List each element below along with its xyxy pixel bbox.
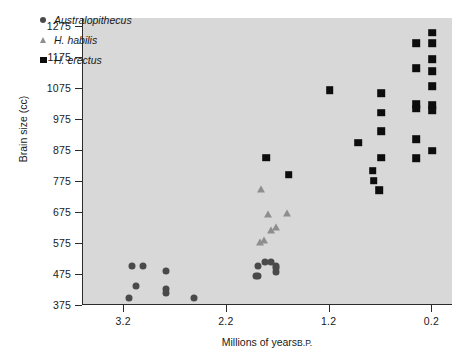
data-point-triangle [257, 186, 265, 193]
x-axis-tick-label: 3.2 [101, 315, 145, 327]
data-point-circle [163, 268, 170, 275]
data-point-square [377, 127, 385, 135]
x-axis-title-main: Millions of years [222, 336, 297, 348]
y-axis-tick [75, 119, 82, 120]
data-point-circle [126, 294, 133, 301]
data-point-square [412, 154, 420, 162]
y-axis-tick-label: 1075 [21, 82, 71, 94]
data-point-square [429, 29, 437, 37]
data-point-triangle [272, 223, 280, 230]
y-axis-tick-label: 875 [21, 144, 71, 156]
x-axis-tick-label: 2.2 [204, 315, 248, 327]
data-point-square [412, 105, 420, 113]
legend-square-icon [40, 57, 54, 64]
x-axis-tick [123, 305, 124, 312]
y-axis-tick [75, 181, 82, 182]
data-point-circle [254, 263, 261, 270]
x-axis-tick [226, 305, 227, 312]
data-point-circle [139, 263, 146, 270]
x-axis-tick [329, 305, 330, 312]
data-point-square [412, 40, 420, 48]
y-axis-tick-label: 775 [21, 175, 71, 187]
legend: AustralopithecusH. habilisH. erectus [40, 14, 132, 66]
data-point-circle [133, 283, 140, 290]
y-axis-tick [75, 88, 82, 89]
data-point-triangle [260, 236, 268, 243]
legend-item-label: H. habilis [54, 34, 97, 46]
legend-item-australopithecus[interactable]: Australopithecus [40, 14, 132, 26]
y-axis-tick-label: 375 [21, 299, 71, 311]
data-point-square [429, 82, 437, 90]
data-point-square [326, 86, 334, 94]
data-point-triangle [283, 210, 291, 217]
x-axis-tick-label: 0.2 [409, 315, 453, 327]
data-point-square [285, 171, 293, 179]
x-axis-tick-label: 1.2 [307, 315, 351, 327]
legend-item-h-habilis[interactable]: H. habilis [40, 34, 132, 46]
data-point-square [429, 40, 437, 48]
data-point-circle [163, 289, 170, 296]
data-point-square [262, 154, 270, 162]
y-axis-tick [75, 150, 82, 151]
data-point-square [377, 89, 385, 97]
legend-item-label: Australopithecus [54, 14, 132, 26]
data-point-square [369, 167, 377, 175]
data-point-square [429, 147, 437, 155]
x-axis-tick [431, 305, 432, 312]
x-axis-title: Millions of yearsB.P. [82, 336, 452, 348]
data-point-square [429, 107, 437, 115]
legend-circle-icon [40, 17, 54, 23]
data-point-circle [252, 273, 259, 280]
data-point-square [377, 109, 385, 117]
data-point-circle [191, 294, 198, 301]
y-axis-tick [75, 243, 82, 244]
y-axis-tick-label: 675 [21, 206, 71, 218]
data-point-circle [273, 268, 280, 275]
y-axis-tick-label: 475 [21, 268, 71, 280]
legend-triangle-icon [40, 37, 54, 43]
legend-item-label: H. erectus [54, 54, 102, 66]
scatter-plot-figure: Brain size (cc) 375475575675775875975107… [0, 0, 469, 361]
data-point-square [377, 154, 385, 162]
y-axis-tick [75, 212, 82, 213]
data-point-square [375, 186, 383, 194]
y-axis-tick-label: 575 [21, 237, 71, 249]
x-axis-title-suffix: B.P. [297, 338, 312, 348]
legend-item-h-erectus[interactable]: H. erectus [40, 54, 132, 66]
plot-area [82, 18, 452, 305]
data-point-circle [129, 263, 136, 270]
data-points-layer [83, 18, 452, 304]
data-point-square [429, 55, 437, 63]
data-point-triangle [264, 211, 272, 218]
y-axis-tick [75, 274, 82, 275]
data-point-circle [273, 262, 280, 269]
y-axis-tick-label: 975 [21, 113, 71, 125]
data-point-square [355, 139, 363, 147]
y-axis-tick [75, 305, 82, 306]
data-point-square [412, 135, 420, 143]
data-point-square [370, 177, 378, 185]
data-point-square [412, 64, 420, 72]
data-point-square [429, 68, 437, 76]
